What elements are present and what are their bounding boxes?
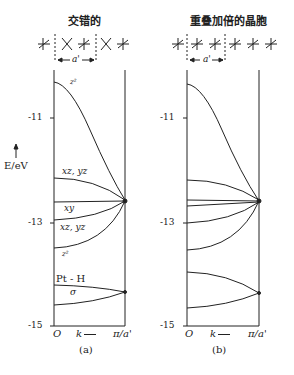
tick-a-15: -15 <box>28 320 43 330</box>
tick-a-13: -13 <box>28 217 43 227</box>
panel-b-title: 重叠加倍的晶胞 <box>190 12 267 28</box>
x-k-a: k <box>76 328 82 339</box>
label-xy: xy <box>64 203 74 213</box>
chain-staggered <box>38 34 129 62</box>
x-origin-a: O <box>53 328 61 339</box>
panel-b-cell-label: a' <box>203 54 211 64</box>
chain-eclipsed <box>172 34 277 62</box>
tick-b-13: -13 <box>160 217 175 227</box>
label-xzyz-lower: xz, yz <box>60 222 85 232</box>
caption-b: (b) <box>212 344 226 355</box>
x-origin-b: O <box>185 328 193 339</box>
label-pth: Pt - H <box>56 273 85 284</box>
x-end-a: π/a' <box>113 328 132 339</box>
panel-a-cell-label: a' <box>72 54 80 64</box>
label-sigma: σ <box>70 287 76 297</box>
k-arrow-b <box>218 334 230 335</box>
band-sigma-lower <box>54 292 125 305</box>
tick-a-11: -11 <box>28 112 43 122</box>
panel-a-title: 交错的 <box>68 12 101 28</box>
band-pth-sigma-upper <box>54 285 125 292</box>
label-z2-upper: z² <box>70 78 77 86</box>
tick-b-15: -15 <box>160 320 175 330</box>
x-k-b: k <box>210 328 216 339</box>
band-xy <box>54 201 125 202</box>
band-structure-diagram <box>0 0 294 375</box>
tick-b-11: -11 <box>160 112 175 122</box>
label-z2-lower: z² <box>62 250 69 258</box>
y-axis-label: E/eV <box>4 160 28 171</box>
k-arrow-a <box>84 334 96 335</box>
x-end-b: π/a' <box>248 328 267 339</box>
label-xzyz-upper: xz, yz <box>62 166 87 176</box>
caption-a: (a) <box>79 344 93 355</box>
